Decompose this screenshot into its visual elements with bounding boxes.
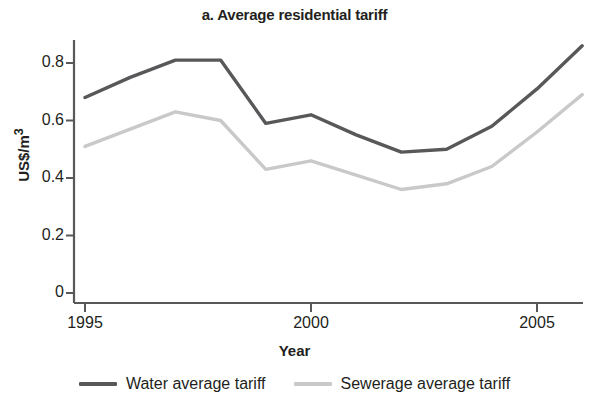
legend-swatch — [79, 382, 117, 386]
series-line — [85, 95, 582, 190]
chart-legend: Water average tariffSewerage average tar… — [0, 375, 589, 393]
series-line — [85, 46, 582, 152]
legend-entry: Sewerage average tariff — [294, 375, 511, 393]
x-axis-tick-label: 2000 — [271, 314, 351, 332]
legend-swatch — [294, 382, 332, 386]
axes-lines — [74, 40, 583, 303]
chart-figure: a. Average residential tariff 00.20.40.6… — [0, 0, 589, 406]
axis-ticks — [66, 63, 537, 312]
x-axis-tick-label: 1995 — [45, 314, 125, 332]
legend-label: Sewerage average tariff — [341, 375, 511, 393]
x-axis-title: Year — [0, 342, 589, 359]
x-axis-tick-label: 2005 — [497, 314, 577, 332]
legend-label: Water average tariff — [126, 375, 266, 393]
legend-entry: Water average tariff — [79, 375, 266, 393]
data-series-lines — [85, 46, 582, 190]
